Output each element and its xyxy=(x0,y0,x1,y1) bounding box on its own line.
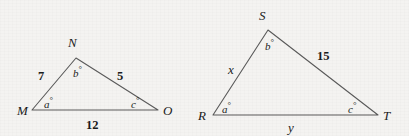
side-label-MO: 12 xyxy=(86,119,99,132)
angle-label-R: a° xyxy=(222,101,231,115)
angle-label-S: b° xyxy=(265,38,274,52)
geometry-figure: M N O 7 5 12 a° b° c° R S T x 15 y a° b°… xyxy=(0,0,409,136)
angle-label-N: b° xyxy=(73,65,82,79)
degree-symbol: ° xyxy=(228,100,232,110)
side-label-RS: x xyxy=(228,63,234,76)
degree-symbol: ° xyxy=(271,37,275,47)
degree-symbol: ° xyxy=(353,100,357,110)
angle-label-T: c° xyxy=(348,101,357,115)
side-label-RT: y xyxy=(288,121,294,134)
angle-label-O: c° xyxy=(131,96,140,110)
degree-symbol: ° xyxy=(79,64,83,74)
degree-symbol: ° xyxy=(136,95,140,105)
angle-label-M: a° xyxy=(44,96,53,110)
degree-symbol: ° xyxy=(50,95,54,105)
side-label-MN: 7 xyxy=(38,70,44,83)
vertex-label-T: T xyxy=(383,109,390,122)
vertex-label-R: R xyxy=(198,109,206,122)
vertex-label-M: M xyxy=(17,104,28,117)
vertex-label-S: S xyxy=(259,9,266,22)
vertex-label-O: O xyxy=(163,104,172,117)
vertex-label-N: N xyxy=(68,36,77,49)
side-label-NO: 5 xyxy=(117,70,123,83)
side-label-ST: 15 xyxy=(317,50,330,63)
